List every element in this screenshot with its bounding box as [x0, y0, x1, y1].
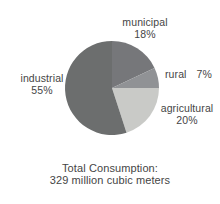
pie-chart-figure: municipal 18% rural 7% agricultural 20% … [0, 0, 220, 204]
caption-line1: Total Consumption: [0, 162, 220, 174]
slice-label-industrial: industrial 55% [2, 73, 82, 96]
slice-percent: 18% [103, 29, 187, 41]
slice-label-agricultural: agricultural 20% [147, 103, 220, 126]
slice-percent: 7% [197, 68, 212, 80]
caption-line2: 329 million cubic meters [0, 174, 220, 186]
slice-name: rural [165, 68, 187, 80]
slice-name: agricultural [147, 103, 220, 115]
slice-label-municipal: municipal 18% [103, 17, 187, 40]
slice-name: industrial [2, 73, 82, 85]
slice-label-rural: rural 7% [165, 69, 212, 81]
total-consumption-caption: Total Consumption: 329 million cubic met… [0, 162, 220, 186]
slice-name: municipal [103, 17, 187, 29]
slice-percent: 20% [147, 115, 220, 127]
slice-percent: 55% [2, 85, 82, 97]
